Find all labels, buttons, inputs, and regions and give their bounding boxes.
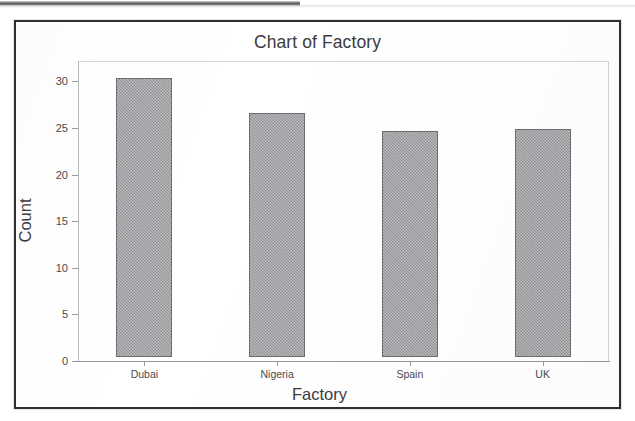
y-axis-tick-label: 5 (16, 308, 68, 320)
y-axis-tick (72, 221, 78, 222)
x-axis-tick-label: Spain (355, 368, 465, 380)
x-axis-tick (410, 361, 411, 366)
y-axis-tick (72, 361, 78, 362)
chart-frame: Chart of Factory 051015202530 Count Duba… (14, 20, 621, 409)
y-axis-tick (72, 128, 78, 129)
x-axis-tick (543, 361, 544, 366)
y-axis-tick (72, 314, 78, 315)
x-axis-tick (277, 361, 278, 366)
bar-uk (515, 129, 571, 357)
y-axis-tick-label: 0 (16, 355, 68, 367)
x-axis-title: Factory (16, 385, 623, 404)
y-axis-tick-label: 25 (16, 122, 68, 134)
x-axis-tick-label: Nigeria (222, 368, 332, 380)
chart-title: Chart of Factory (16, 32, 619, 53)
bar-dubai (116, 78, 172, 358)
y-axis-tick (72, 175, 78, 176)
x-axis-line (78, 361, 610, 362)
bar-spain (382, 131, 438, 357)
x-axis-tick-label: Dubai (89, 368, 199, 380)
scan-artifact-line (0, 5, 635, 8)
y-axis-tick-label: 30 (16, 75, 68, 87)
x-axis-tick-label: UK (488, 368, 598, 380)
y-axis-tick (72, 81, 78, 82)
y-axis-tick (72, 268, 78, 269)
bar-nigeria (249, 113, 305, 357)
x-axis-tick (144, 361, 145, 366)
y-axis-title: Count (16, 161, 35, 281)
